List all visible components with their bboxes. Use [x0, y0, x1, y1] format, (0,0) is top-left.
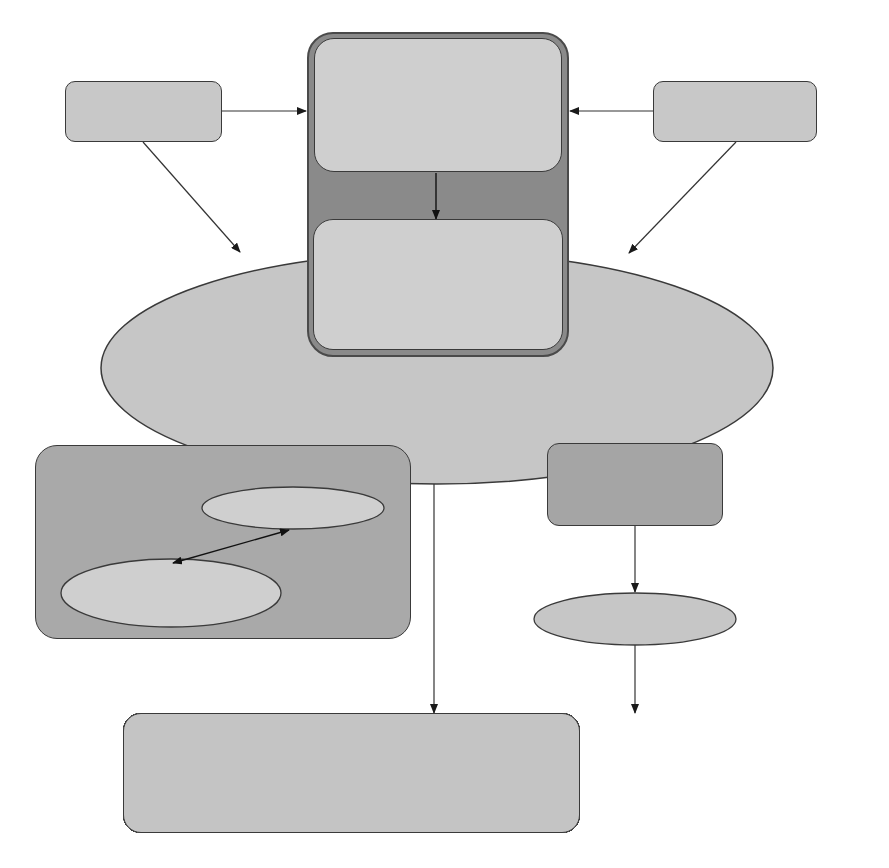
- licensee-box[interactable]: [653, 81, 817, 142]
- municipalities-box[interactable]: [547, 443, 723, 526]
- ng-local-headquarters-box[interactable]: [313, 219, 563, 350]
- ng-headquarters-box[interactable]: [314, 38, 562, 172]
- support-agencies-cell[interactable]: [123, 713, 580, 833]
- nuclear-safety-commission-box[interactable]: [65, 81, 222, 142]
- dispatch-arrow: [143, 142, 240, 252]
- prefectures-box[interactable]: [35, 445, 411, 639]
- participation-arrow: [629, 142, 736, 253]
